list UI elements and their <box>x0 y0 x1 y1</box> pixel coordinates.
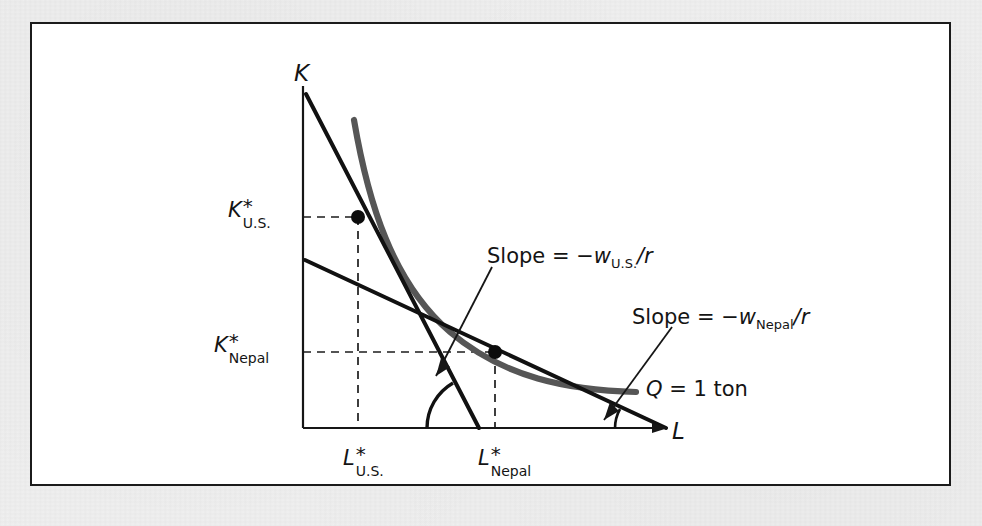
l-star-us-star: * <box>356 444 366 464</box>
slope-nepal-suffix: /r <box>794 305 810 329</box>
guide-lines-group <box>303 217 495 428</box>
k-star-us-sub: U.S. <box>243 216 271 230</box>
leader-line-slope-us <box>436 267 492 376</box>
slope-nepal-var: w <box>739 305 756 329</box>
k-star-nepal-label: K*Nepal <box>214 335 228 356</box>
l-star-nepal-star: * <box>491 444 501 464</box>
k-star-us-var: K <box>228 198 242 222</box>
isocost-line-nepal <box>305 260 666 428</box>
isoquant-q-text: = 1 ton <box>663 377 748 401</box>
l-star-nepal-label: L*Nepal <box>478 448 490 469</box>
tangency-point-nepal <box>488 345 502 359</box>
k-star-us-star: * <box>243 196 253 216</box>
k-star-nepal-var: K <box>214 333 228 357</box>
k-star-nepal-sub: Nepal <box>229 351 269 365</box>
slope-nepal-sub: Nepal <box>756 317 794 332</box>
isoquant-q-var: Q <box>646 377 663 401</box>
l-star-nepal-var: L <box>478 446 490 470</box>
isoquant-q-label: Q = 1 ton <box>646 379 748 400</box>
k-star-us-label: K*U.S. <box>228 200 242 221</box>
slope-us-sub: U.S. <box>611 256 637 271</box>
tangency-point-us <box>351 210 365 224</box>
isocost-line-us <box>306 94 479 428</box>
slope-us-prefix: Slope = − <box>487 244 594 268</box>
leader-line-slope-nepal <box>604 327 672 420</box>
slope-us-suffix: /r <box>637 244 653 268</box>
k-axis-label: K <box>294 62 309 85</box>
figure-frame: K L K*U.S. K*Nepal L*U.S. L*Nepal Slope … <box>30 22 951 486</box>
l-axis-label: L <box>672 420 685 443</box>
slope-nepal-annotation: Slope = −wNepal/r <box>632 307 809 331</box>
l-star-us-label: L*U.S. <box>343 448 355 469</box>
l-star-nepal-sub: Nepal <box>491 464 531 478</box>
slope-us-annotation: Slope = −wU.S./r <box>487 246 653 270</box>
slope-nepal-prefix: Slope = − <box>632 305 739 329</box>
slope-us-var: w <box>594 244 611 268</box>
angle-arc-us <box>427 383 453 428</box>
k-star-nepal-star: * <box>229 331 239 351</box>
l-star-us-sub: U.S. <box>356 464 384 478</box>
l-star-us-var: L <box>343 446 355 470</box>
figure-page: K L K*U.S. K*Nepal L*U.S. L*Nepal Slope … <box>0 0 982 526</box>
